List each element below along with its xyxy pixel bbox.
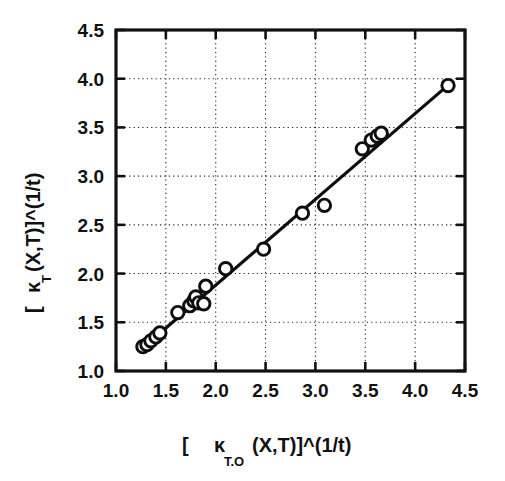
y-tick-label: 3.5 (78, 117, 105, 138)
y-tick-label: 4.0 (78, 69, 104, 90)
x-tick-label: 1.0 (103, 380, 129, 401)
y-axis-title-subscript: T (39, 275, 54, 283)
x-tick-label: 3.0 (302, 380, 328, 401)
x-tick-label: 2.0 (203, 380, 229, 401)
gridlines (116, 30, 465, 371)
scatter-plot: 1.01.52.02.53.03.54.04.5 1.01.52.02.53.0… (0, 0, 505, 481)
x-tick-label: 1.5 (153, 380, 180, 401)
tickmarks (116, 30, 465, 371)
x-axis-tick-labels: 1.01.52.02.53.03.54.04.5 (103, 380, 479, 401)
x-tick-label: 3.5 (352, 380, 379, 401)
x-axis-title-bracket: [ (182, 434, 189, 456)
data-point-marker (257, 243, 269, 255)
data-point-marker (154, 327, 166, 339)
x-tick-label: 4.0 (402, 380, 428, 401)
y-tick-label: 1.0 (78, 361, 104, 382)
x-axis-title-subscript: T.O (224, 454, 244, 469)
plot-frame (116, 30, 465, 371)
y-tick-label: 1.5 (78, 312, 105, 333)
y-axis-title: [ κ T (X,T)]^(1/t) (22, 173, 54, 313)
data-point-marker (375, 127, 387, 139)
data-point-marker (172, 306, 184, 318)
y-tick-label: 3.0 (78, 166, 104, 187)
data-point-marker (442, 79, 454, 91)
data-point-marker (200, 280, 212, 292)
x-axis-title-rest: (X,T)]^(1/t) (252, 434, 351, 456)
y-axis-tick-labels: 1.01.52.02.53.03.54.04.5 (78, 20, 105, 382)
y-tick-label: 4.5 (78, 20, 105, 41)
x-axis-title: [ κ T.O (X,T)]^(1/t) (182, 434, 351, 469)
y-axis-title-bracket: [ (22, 306, 44, 313)
data-point-marker (198, 298, 210, 310)
x-tick-label: 2.5 (252, 380, 279, 401)
x-axis-title-kappa: κ (214, 434, 226, 456)
y-axis-title-rest: (X,T)]^(1/t) (22, 173, 44, 272)
y-tick-label: 2.5 (78, 215, 105, 236)
y-tick-label: 2.0 (78, 264, 104, 285)
chart-figure: 1.01.52.02.53.03.54.04.5 1.01.52.02.53.0… (0, 0, 505, 481)
data-point-marker (318, 199, 330, 211)
x-tick-label: 4.5 (452, 380, 479, 401)
data-point-marker (219, 263, 231, 275)
data-point-marker (296, 207, 308, 219)
